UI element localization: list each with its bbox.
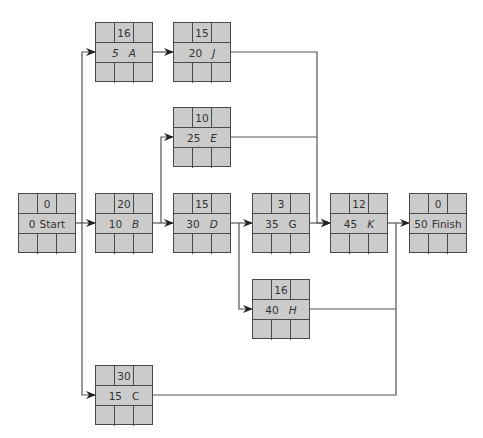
node-name: B bbox=[132, 218, 139, 230]
node-g[interactable]: 3 35G bbox=[252, 193, 310, 253]
node-id: 35 bbox=[265, 218, 278, 230]
duration: 16 bbox=[115, 23, 134, 42]
node-name: C bbox=[132, 390, 139, 402]
duration: 0 bbox=[429, 194, 448, 213]
node-j[interactable]: 15 20J bbox=[173, 22, 231, 82]
node-b[interactable]: 20 10B bbox=[95, 193, 153, 253]
node-name: Finish bbox=[432, 218, 462, 230]
node-name: K bbox=[367, 218, 374, 230]
node-id: 15 bbox=[109, 390, 122, 402]
duration: 15 bbox=[193, 23, 212, 42]
node-e[interactable]: 10 25E bbox=[173, 107, 231, 167]
node-id: 5 bbox=[112, 47, 119, 59]
network-diagram: 0 0Start 16 5A 15 20J 10 25E 20 10B 15 3… bbox=[0, 0, 483, 438]
node-d[interactable]: 15 30D bbox=[173, 193, 231, 253]
duration: 12 bbox=[350, 194, 369, 213]
node-name: D bbox=[210, 218, 218, 230]
node-finish[interactable]: 0 50Finish bbox=[409, 193, 467, 253]
duration: 16 bbox=[272, 280, 291, 299]
node-id: 0 bbox=[29, 218, 36, 230]
node-name: G bbox=[289, 218, 297, 230]
node-name: A bbox=[129, 47, 136, 59]
node-c[interactable]: 30 15C bbox=[95, 365, 153, 425]
duration: 3 bbox=[272, 194, 291, 213]
duration: 30 bbox=[115, 366, 134, 385]
node-start[interactable]: 0 0Start bbox=[18, 193, 76, 253]
node-id: 25 bbox=[187, 132, 200, 144]
node-id: 20 bbox=[189, 47, 202, 59]
node-a[interactable]: 16 5A bbox=[95, 22, 153, 82]
duration: 10 bbox=[193, 108, 212, 127]
node-id: 30 bbox=[186, 218, 199, 230]
duration: 20 bbox=[115, 194, 134, 213]
node-id: 50 bbox=[414, 218, 427, 230]
node-id: 10 bbox=[109, 218, 122, 230]
node-name: Start bbox=[40, 218, 66, 230]
duration: 0 bbox=[38, 194, 57, 213]
node-h[interactable]: 16 40H bbox=[252, 279, 310, 339]
node-id: 45 bbox=[344, 218, 357, 230]
duration: 15 bbox=[193, 194, 212, 213]
node-id: 40 bbox=[265, 304, 278, 316]
node-name: H bbox=[289, 304, 297, 316]
node-name: J bbox=[212, 47, 215, 59]
node-k[interactable]: 12 45K bbox=[330, 193, 388, 253]
node-name: E bbox=[210, 132, 217, 144]
